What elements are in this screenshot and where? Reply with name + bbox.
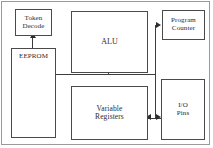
block-io-pins-label: I/O Pins <box>177 102 189 117</box>
block-eeprom[interactable]: EEPROM <box>11 48 56 138</box>
block-eeprom-label: EEPROM <box>19 53 48 61</box>
connector-right-trunk <box>155 25 156 119</box>
block-alu-label: ALU <box>101 38 118 47</box>
block-io-pins[interactable]: I/O Pins <box>161 79 205 140</box>
block-program-counter[interactable]: Program Counter <box>162 10 205 40</box>
arrowhead-right-program-counter <box>156 22 161 28</box>
block-program-counter-label: Program Counter <box>171 17 196 32</box>
block-variable-registers-label: Variable Registers <box>95 105 124 121</box>
block-diagram-canvas: Token Decode EEPROM ALU Program Counter … <box>0 0 213 148</box>
block-variable-registers[interactable]: Variable Registers <box>71 86 148 140</box>
connector-bus-to-alu <box>108 73 109 75</box>
block-alu[interactable]: ALU <box>71 11 148 73</box>
connector-eeprom-data-bus <box>56 74 156 75</box>
block-token-decode[interactable]: Token Decode <box>15 9 52 36</box>
block-token-decode-label: Token Decode <box>23 15 45 30</box>
